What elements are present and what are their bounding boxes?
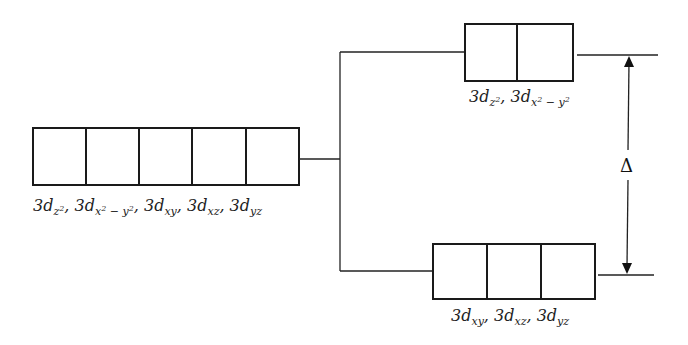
lower-orbital-boxes [433,244,595,299]
orbital-box-dx2y2-upper [517,24,573,81]
diagram-canvas [0,0,688,345]
orbital-box-dxz [192,128,246,185]
orbital-box-dxz-lower [487,244,541,299]
arrow-up-icon [624,56,634,67]
delta-symbol: Δ [620,153,633,178]
orbital-box-dyz [246,128,299,185]
orbital-box-dyz-lower [541,244,595,299]
upper-label: 3dz2, 3dx2 − y2 [469,87,570,109]
lower-label: 3dxy, 3dxz, 3dyz [451,306,569,328]
splitting-connectors [299,52,465,271]
orbital-box-dz2-upper [465,24,517,81]
degenerate-label: 3dz2, 3dx2 − y2, 3dxy, 3dxz, 3dyz [33,196,262,218]
upper-orbital-boxes [465,24,573,81]
arrow-down-icon [622,263,632,274]
orbital-box-dxy [139,128,192,185]
orbital-box-dxy-lower [433,244,487,299]
degenerate-orbital-boxes [33,128,299,185]
orbital-box-dz2 [33,128,86,185]
orbital-box-dx2y2 [86,128,139,185]
